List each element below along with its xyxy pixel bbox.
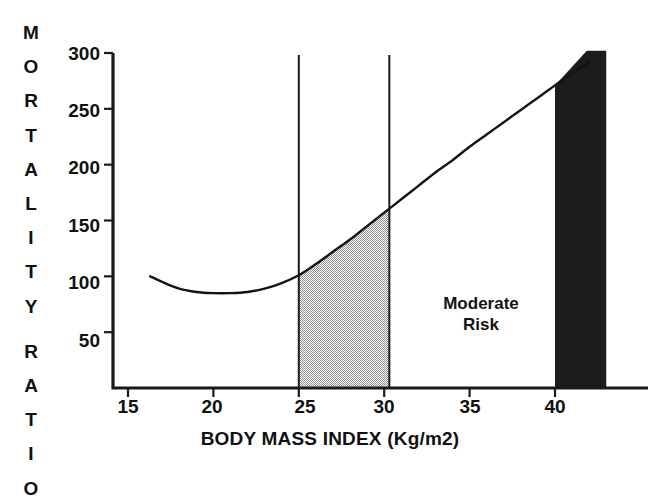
low-risk-shaded-band	[299, 209, 390, 388]
y-axis-title-char: O	[24, 478, 39, 499]
high-risk-black-block	[555, 51, 606, 388]
